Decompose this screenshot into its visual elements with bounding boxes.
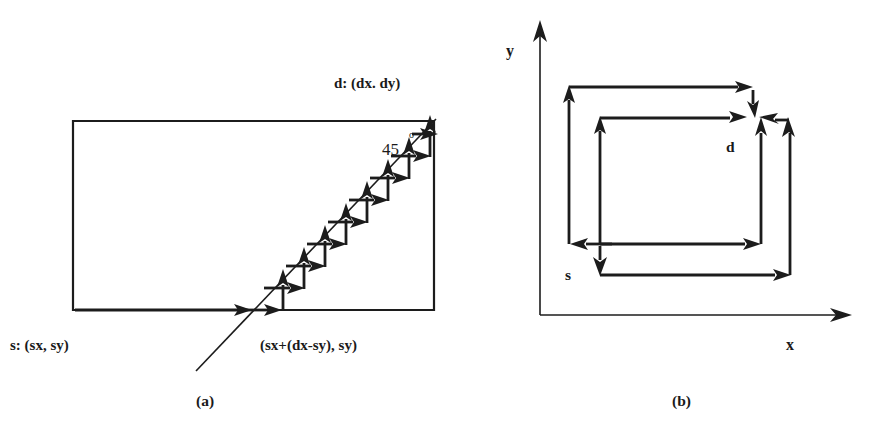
panel-b-group: y x s d (b) (506, 20, 852, 410)
label-x-axis: x (786, 336, 794, 353)
panel-a-caption: (a) (196, 392, 214, 410)
label-crossing-point-a: (sx+(dx-sy), sy) (260, 337, 357, 354)
label-destination-point-a: d: (dx. dy) (334, 75, 400, 92)
panel-a-group: s: (sx, sy) (sx+(dx-sy), sy) d: (dx. dy)… (10, 75, 438, 410)
label-destination-point-b: d (726, 138, 735, 155)
staircase-arrows (243, 115, 438, 316)
y-axis (533, 20, 547, 315)
label-source-point-a: s: (sx, sy) (10, 337, 69, 354)
bottom-edge-arrow (75, 304, 252, 316)
label-y-axis: y (506, 42, 514, 60)
label-angle-value: 45 (382, 140, 399, 159)
panel-b-caption: (b) (672, 392, 691, 410)
degree-symbol-icon: o (409, 129, 414, 140)
label-source-point-b: s (565, 266, 571, 283)
panel-a-rectangle (73, 121, 434, 310)
x-axis (540, 308, 852, 322)
figure-canvas: s: (sx, sy) (sx+(dx-sy), sy) d: (dx. dy)… (0, 0, 887, 435)
inner-traversal-path (593, 111, 789, 276)
figure-root: s: (sx, sy) (sx+(dx-sy), sy) d: (dx. dy)… (0, 0, 887, 435)
